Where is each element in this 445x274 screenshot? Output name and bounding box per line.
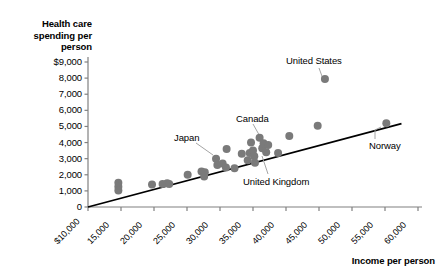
- leader-line: [196, 143, 213, 155]
- data-point: [321, 75, 329, 83]
- data-point: [238, 150, 246, 158]
- axes: [85, 57, 423, 211]
- data-points: [114, 75, 390, 195]
- data-point: [165, 180, 173, 188]
- data-point: [114, 187, 122, 195]
- data-point: [251, 159, 259, 167]
- data-point: [382, 119, 390, 127]
- data-point: [314, 122, 322, 130]
- data-point: [201, 168, 209, 176]
- data-point: [264, 141, 272, 149]
- data-point: [274, 149, 282, 157]
- regression-line: [88, 124, 402, 207]
- plot-area: [0, 0, 445, 274]
- data-point: [222, 164, 230, 172]
- scatter-chart: Health care spending per person Income p…: [0, 0, 445, 274]
- data-point: [262, 148, 270, 156]
- trend-line: [88, 124, 402, 207]
- data-point: [148, 180, 156, 188]
- data-point: [184, 171, 192, 179]
- data-point: [285, 132, 293, 140]
- data-point: [231, 164, 239, 172]
- data-point: [247, 139, 255, 147]
- annotation-leader-lines: [196, 68, 381, 174]
- data-point: [223, 145, 231, 153]
